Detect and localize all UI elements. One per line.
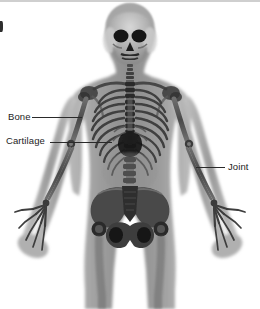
skeleton-illustration	[0, 0, 260, 309]
obturator-foramen-right	[137, 227, 151, 243]
top-edge-strip	[0, 0, 260, 2]
orbit-right	[132, 30, 147, 43]
left-edge-mark	[0, 21, 3, 32]
skeleton-figure-container: Bone Cartilage Joint	[0, 0, 260, 309]
obturator-foramen-left	[109, 227, 123, 243]
orbit-left	[114, 30, 129, 43]
